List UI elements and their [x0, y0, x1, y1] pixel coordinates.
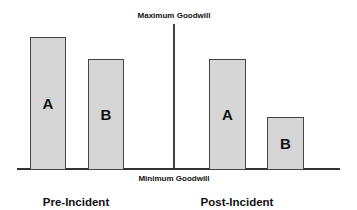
bar-label-b: B: [280, 135, 291, 152]
maximum-goodwill-label: Maximum Goodwill: [138, 11, 211, 20]
bar-label-a: A: [43, 95, 54, 112]
bar-pre-incident-a: A: [30, 37, 66, 170]
post-incident-label: Post-Incident: [201, 196, 274, 208]
divider-axis-line: [173, 24, 175, 170]
bar-label-b: B: [101, 106, 112, 123]
bar-post-incident-a: A: [209, 59, 246, 170]
bar-pre-incident-b: B: [88, 59, 124, 170]
bar-post-incident-b: B: [267, 117, 304, 170]
bar-label-a: A: [222, 106, 233, 123]
pre-incident-label: Pre-Incident: [43, 196, 109, 208]
minimum-goodwill-label: Minimum Goodwill: [138, 174, 209, 183]
